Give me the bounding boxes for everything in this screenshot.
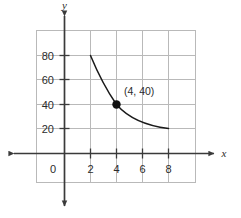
- data-point-label: (4, 40): [124, 85, 154, 97]
- graph-canvas: 80 60 40 20 2 4 6 8 0 x y (4, 40): [0, 0, 241, 218]
- x-tick-label-2: 2: [87, 163, 93, 175]
- data-point-marker: [112, 100, 120, 108]
- y-tick-label-40: 40: [42, 99, 54, 111]
- x-tick-label-4: 4: [113, 163, 119, 175]
- x-tick-label-8: 8: [165, 163, 171, 175]
- y-axis-label: y: [61, 0, 67, 11]
- y-tick-label-20: 20: [42, 123, 54, 135]
- x-tick-label-6: 6: [139, 163, 145, 175]
- y-tick-label-80: 80: [42, 50, 54, 62]
- coordinate-graph-figure: 80 60 40 20 2 4 6 8 0 x y (4, 40): [0, 0, 241, 218]
- x-axis-label: x: [221, 147, 227, 159]
- origin-label: 0: [50, 163, 56, 175]
- y-tick-label-60: 60: [42, 74, 54, 86]
